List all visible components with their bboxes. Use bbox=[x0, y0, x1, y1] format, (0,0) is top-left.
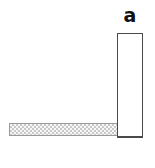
figure-canvas: a bbox=[0, 0, 155, 168]
block-label: a bbox=[117, 4, 143, 27]
horizontal-textured-bar bbox=[9, 123, 118, 136]
vertical-block bbox=[117, 33, 143, 138]
